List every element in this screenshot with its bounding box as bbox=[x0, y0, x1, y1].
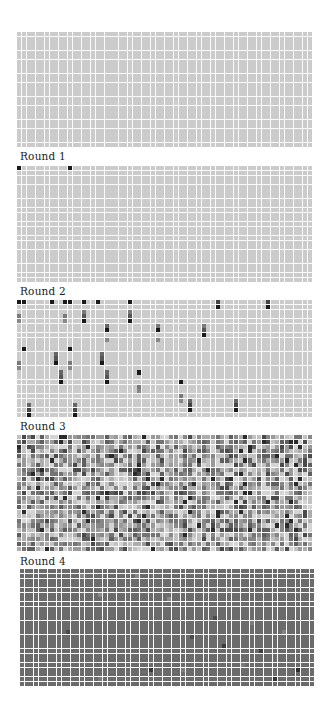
grid-cell bbox=[100, 166, 104, 170]
grid-cell bbox=[142, 259, 146, 263]
grid-cell bbox=[248, 64, 252, 68]
grid-cell bbox=[248, 519, 252, 523]
grid-cell bbox=[296, 649, 300, 653]
grid-cell bbox=[82, 245, 86, 249]
grid-cell bbox=[252, 106, 256, 110]
grid-cell bbox=[109, 143, 113, 147]
grid-cell bbox=[250, 630, 254, 634]
grid-cell bbox=[119, 342, 123, 346]
grid-cell bbox=[262, 264, 266, 268]
grid-cell bbox=[248, 408, 252, 412]
grid-cell bbox=[291, 668, 295, 672]
grid-cell bbox=[243, 92, 247, 96]
grid-cell bbox=[271, 500, 275, 504]
grid-cell bbox=[73, 399, 77, 403]
grid-cell bbox=[100, 328, 104, 332]
grid-cell bbox=[96, 413, 100, 417]
grid-cell bbox=[211, 314, 215, 318]
grid-cell bbox=[137, 482, 141, 486]
grid-cell bbox=[131, 607, 135, 611]
grid-cell bbox=[257, 310, 261, 314]
grid-cell bbox=[289, 97, 293, 101]
grid-cell bbox=[73, 83, 77, 87]
grid-cell bbox=[86, 528, 90, 532]
grid-cell bbox=[248, 468, 252, 472]
grid-cell bbox=[29, 579, 33, 583]
grid-cell bbox=[234, 496, 238, 500]
grid-cell bbox=[259, 682, 263, 686]
grid-cell bbox=[169, 241, 173, 245]
grid-cell bbox=[273, 635, 277, 639]
grid-cell bbox=[289, 217, 293, 221]
grid-cell bbox=[17, 264, 21, 268]
grid-cell bbox=[25, 569, 29, 573]
grid-cell bbox=[54, 352, 58, 356]
grid-cell bbox=[285, 389, 289, 393]
grid-cell bbox=[156, 347, 160, 351]
grid-cell bbox=[179, 361, 183, 365]
grid-cell bbox=[96, 356, 100, 360]
grid-cell bbox=[183, 180, 187, 184]
grid-cell bbox=[137, 254, 141, 258]
grid-cell bbox=[225, 491, 229, 495]
grid-cell bbox=[103, 597, 107, 601]
grid-cell bbox=[100, 440, 104, 444]
grid-cell bbox=[197, 356, 201, 360]
grid-cell bbox=[151, 385, 155, 389]
grid-cell bbox=[63, 547, 67, 551]
grid-cell bbox=[248, 380, 252, 384]
grid-cell bbox=[27, 542, 31, 546]
grid-cell bbox=[45, 46, 49, 50]
grid-cell bbox=[211, 333, 215, 337]
grid-cell bbox=[160, 51, 164, 55]
grid-cell bbox=[248, 533, 252, 537]
grid-cell bbox=[252, 51, 256, 55]
grid-cell bbox=[140, 597, 144, 601]
grid-cell bbox=[225, 87, 229, 91]
grid-cell bbox=[86, 222, 90, 226]
grid-cell bbox=[128, 83, 132, 87]
grid-cell bbox=[275, 101, 279, 105]
grid-cell bbox=[220, 472, 224, 476]
grid-cell bbox=[91, 129, 95, 133]
grid-cell bbox=[133, 500, 137, 504]
grid-cell bbox=[192, 310, 196, 314]
grid-cell bbox=[264, 611, 268, 615]
grid-cell bbox=[45, 143, 49, 147]
grid-cell bbox=[243, 449, 247, 453]
grid-cell bbox=[109, 37, 113, 41]
grid-cell bbox=[75, 639, 79, 643]
grid-cell bbox=[303, 454, 307, 458]
grid-cell bbox=[243, 375, 247, 379]
grid-cell bbox=[68, 185, 72, 189]
grid-cell bbox=[220, 361, 224, 365]
grid-cell bbox=[17, 542, 21, 546]
grid-cell bbox=[144, 588, 148, 592]
grid-cell bbox=[48, 607, 52, 611]
grid-cell bbox=[112, 569, 116, 573]
grid-cell bbox=[149, 625, 153, 629]
grid-cell bbox=[280, 278, 284, 282]
grid-cell bbox=[131, 625, 135, 629]
grid-cell bbox=[243, 314, 247, 318]
grid-cell bbox=[206, 208, 210, 212]
grid-cell bbox=[280, 208, 284, 212]
grid-cell bbox=[266, 463, 270, 467]
grid-cell bbox=[225, 222, 229, 226]
grid-cell bbox=[165, 78, 169, 82]
grid-cell bbox=[114, 241, 118, 245]
grid-cell bbox=[45, 213, 49, 217]
grid-cell bbox=[109, 83, 113, 87]
grid-cell bbox=[241, 668, 245, 672]
grid-cell bbox=[248, 254, 252, 258]
grid-cell bbox=[232, 574, 236, 578]
grid-cell bbox=[192, 259, 196, 263]
grid-cell bbox=[285, 472, 289, 476]
grid-cell bbox=[229, 171, 233, 175]
grid-cell bbox=[285, 78, 289, 82]
grid-cell bbox=[108, 616, 112, 620]
grid-cell bbox=[303, 124, 307, 128]
grid-cell bbox=[73, 273, 77, 277]
grid-cell bbox=[289, 171, 293, 175]
grid-cell bbox=[264, 621, 268, 625]
